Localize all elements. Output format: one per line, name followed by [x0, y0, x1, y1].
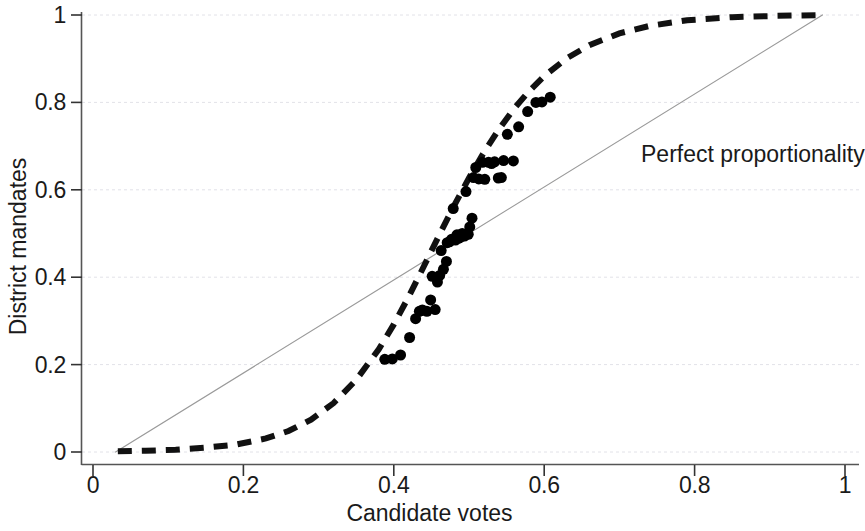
- y-tick-label-wrap: 0.2: [0, 365, 66, 392]
- x-tick-label: 0: [87, 472, 100, 499]
- x-tick-label: 0.2: [228, 472, 259, 499]
- y-tick-label: 0.8: [0, 89, 66, 116]
- y-tick-label-wrap: 0.8: [0, 102, 66, 129]
- scatter-point: [448, 203, 459, 214]
- y-tick-label: 1: [0, 2, 66, 29]
- x-tick-marks-group: [93, 465, 845, 476]
- scatter-point: [513, 121, 524, 132]
- scatter-point: [460, 186, 471, 197]
- scatter-point: [479, 174, 490, 185]
- x-tick-label: 1: [839, 472, 852, 499]
- scatter-point: [522, 106, 533, 117]
- scatter-point: [545, 92, 556, 103]
- x-tick-label: 0.4: [378, 472, 409, 499]
- scatter-point: [425, 294, 436, 305]
- scatter-points-group: [379, 92, 555, 365]
- scatter-point: [508, 155, 519, 166]
- scatter-point: [502, 129, 513, 140]
- annotation-perfect-proportionality: Perfect proportionality: [641, 141, 865, 168]
- y-tick-label: 0.2: [0, 351, 66, 378]
- y-tick-label-wrap: 0: [0, 452, 66, 479]
- scatter-point: [498, 155, 509, 166]
- y-tick-label-wrap: 1: [0, 15, 66, 42]
- y-tick-label: 0: [0, 439, 66, 466]
- x-tick-label: 0.8: [679, 472, 710, 499]
- x-tick-label: 0.6: [529, 472, 560, 499]
- scatter-point: [404, 332, 415, 343]
- scatter-point: [395, 349, 406, 360]
- scatter-point: [441, 256, 452, 267]
- scatter-point: [467, 213, 478, 224]
- y-tick-marks-group: [71, 15, 82, 452]
- scatter-point: [496, 172, 507, 183]
- scatter-point: [430, 304, 441, 315]
- y-axis-title: District mandates: [5, 147, 32, 347]
- x-axis-title: Candidate votes: [0, 500, 859, 527]
